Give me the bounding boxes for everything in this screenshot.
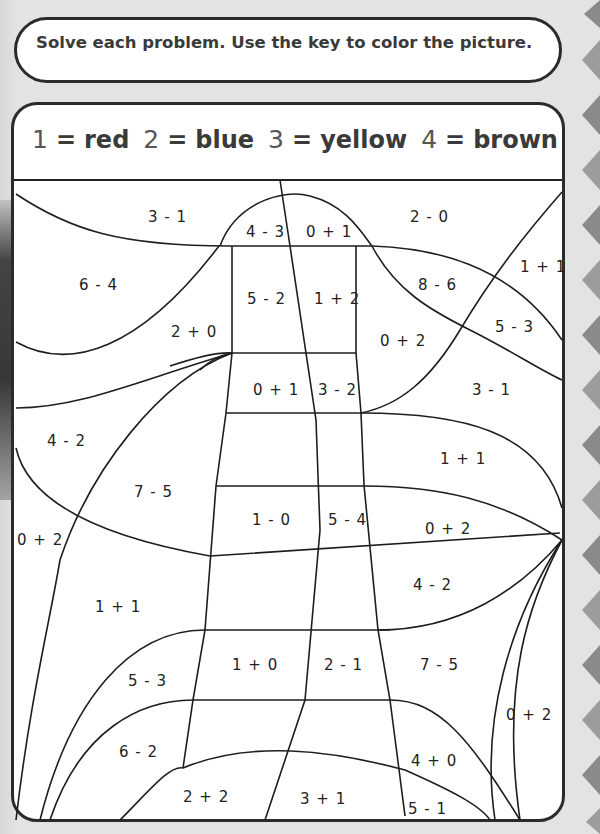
problem-label: 1 + 1 xyxy=(440,450,486,468)
problem-label: 1 + 1 xyxy=(95,598,141,616)
problem-label: 0 + 1 xyxy=(306,223,352,241)
problem-label: 1 + 2 xyxy=(314,290,360,308)
problem-label: 0 + 2 xyxy=(17,531,63,549)
problem-label: 3 - 1 xyxy=(472,381,511,399)
problem-label: 5 - 3 xyxy=(495,318,534,336)
problem-label: 0 + 2 xyxy=(425,520,471,538)
problem-label: 4 + 0 xyxy=(411,752,457,770)
problem-label: 4 - 2 xyxy=(47,432,86,450)
problem-label: 6 - 4 xyxy=(79,276,118,294)
problem-label: 5 - 3 xyxy=(128,672,167,690)
problem-label: 1 + 1 xyxy=(520,258,566,276)
problem-label: 4 - 3 xyxy=(246,223,285,241)
problem-label: 7 - 5 xyxy=(420,656,459,674)
problem-label: 2 + 0 xyxy=(171,323,217,341)
problem-label: 1 - 0 xyxy=(252,511,291,529)
problem-label: 2 - 0 xyxy=(410,208,449,226)
problem-label: 2 - 1 xyxy=(324,656,363,674)
problem-label: 4 - 2 xyxy=(413,576,452,594)
problem-label: 0 + 1 xyxy=(253,381,299,399)
problem-label: 3 - 2 xyxy=(318,381,357,399)
problem-label: 0 + 2 xyxy=(380,332,426,350)
problem-label: 5 - 1 xyxy=(408,800,447,818)
problem-label: 0 + 2 xyxy=(506,706,552,724)
problem-label: 7 - 5 xyxy=(134,483,173,501)
problem-label: 3 - 1 xyxy=(148,208,187,226)
problem-label: 2 + 2 xyxy=(183,788,229,806)
problem-label: 5 - 4 xyxy=(328,511,367,529)
problem-label: 3 + 1 xyxy=(300,790,346,808)
problem-label: 6 - 2 xyxy=(119,743,158,761)
problem-label: 5 - 2 xyxy=(247,290,286,308)
problem-label: 1 + 0 xyxy=(232,656,278,674)
chevron-border-decoration xyxy=(578,0,600,834)
problem-label: 8 - 6 xyxy=(418,276,457,294)
